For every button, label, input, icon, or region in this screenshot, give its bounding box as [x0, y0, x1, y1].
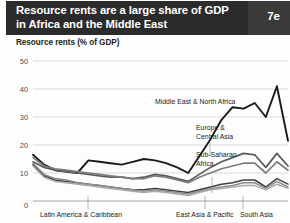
chart-plot-area: 01020304050 Middle East & North AfricaEu…	[0, 0, 290, 223]
series-line-east-asia-pacific	[33, 165, 288, 193]
annotation-label-2: Central Asia	[196, 133, 233, 140]
y-tick-20: 20	[20, 141, 28, 150]
figure-panel: Resource rents are a large share of GDP …	[0, 0, 290, 223]
annotation-label-5: Latin America & Caribbean	[40, 211, 122, 218]
annotation-label-3: Sub-Saharan	[196, 151, 237, 158]
y-tick-50: 50	[20, 57, 28, 66]
annotation-label-0: Middle East & North Africa	[155, 98, 236, 105]
y-tick-0: 0	[24, 201, 28, 210]
line-chart-svg: 01020304050 Middle East & North AfricaEu…	[0, 0, 290, 223]
y-axis-tick-labels: 01020304050	[20, 57, 28, 210]
y-tick-40: 40	[20, 85, 28, 94]
annotation-label-7: South Asia	[240, 211, 273, 218]
annotation-label-1: Europe &	[196, 124, 225, 132]
y-tick-30: 30	[20, 113, 28, 122]
annotation-label-6: East Asia & Pacific	[176, 211, 234, 218]
annotation-label-4: Africa	[196, 160, 214, 167]
series-annotations-group: Middle East & North AfricaEurope &Centra…	[40, 98, 273, 218]
y-tick-10: 10	[20, 169, 28, 178]
